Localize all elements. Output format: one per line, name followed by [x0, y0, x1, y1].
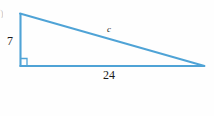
right-triangle-drawing — [0, 0, 214, 116]
side-label-horizontal-leg: 24 — [103, 69, 115, 81]
triangle-side-hypotenuse — [20, 14, 205, 67]
side-label-vertical-leg: 7 — [7, 35, 13, 47]
geometry-figure: 7 24 c ) — [0, 0, 214, 116]
side-label-hypotenuse: c — [107, 25, 111, 34]
cropped-edge-glyph: ) — [0, 7, 3, 18]
